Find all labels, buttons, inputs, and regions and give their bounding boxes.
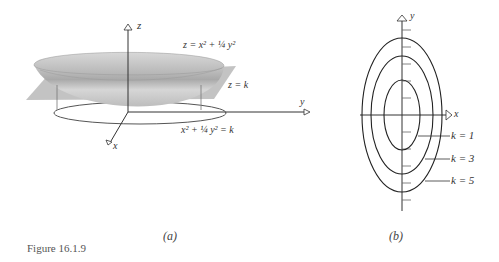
y-axis-arrow-icon (304, 109, 310, 115)
panel-a-3d-plot (26, 24, 310, 145)
figure-caption: Figure 16.1.9 (27, 242, 86, 254)
panel-b-label: (b) (389, 229, 403, 244)
k1-label: k = 1 (451, 130, 474, 141)
b-x-axis-label: x (454, 109, 458, 119)
b-y-axis-arrow-icon (397, 15, 407, 21)
figure-canvas (0, 0, 499, 262)
surface-equation: z = x² + ¼ y² (183, 40, 235, 50)
k5-label: k = 5 (451, 175, 474, 186)
b-x-axis-arrow-icon (446, 110, 452, 120)
panel-a-label: (a) (163, 229, 177, 244)
y-axis-label: y (300, 97, 304, 107)
b-y-axis-label: y (410, 11, 414, 21)
z-axis-label: z (137, 20, 141, 31)
panel-b-contour-plot (360, 15, 452, 211)
plane-equation: z = k (228, 80, 248, 90)
x-axis-label: x (113, 141, 117, 151)
z-axis-arrow-icon (124, 24, 132, 30)
k3-label: k = 3 (451, 153, 474, 164)
x-axis (111, 112, 128, 141)
level-curve-equation: x² + ¼ y² = k (181, 125, 234, 135)
